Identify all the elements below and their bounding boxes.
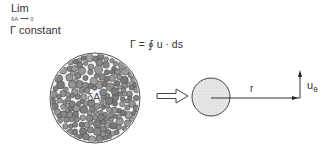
limit-subscript: δA ⟶ 0 (11, 15, 34, 22)
limit-label: Lim (11, 2, 29, 14)
theta-subscript: θ (313, 85, 317, 94)
velocity-arrow-icon (298, 70, 302, 98)
radius-label: r (250, 83, 253, 94)
circulation-formula: Γ = ∮ u · ds (130, 38, 183, 50)
transition-arrow-icon (157, 89, 188, 103)
gamma-constant-label: Γ constant (10, 24, 61, 36)
point-vortex-circle (192, 78, 230, 116)
velocity-label: uθ (307, 79, 318, 94)
delta-area-label: δA (87, 91, 100, 103)
vortex-diagram (0, 0, 335, 147)
